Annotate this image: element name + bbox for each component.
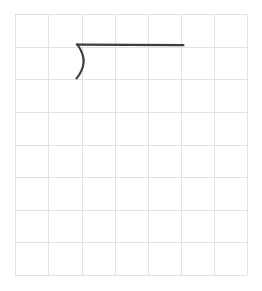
hand-drawn-hook-stroke[interactable]: [77, 45, 184, 79]
horizontal-stroke[interactable]: [77, 45, 184, 46]
sketch-surface[interactable]: [0, 0, 262, 291]
grid-horizontal-lines: [15, 14, 247, 275]
curve-stroke[interactable]: [77, 45, 84, 79]
graph-paper-grid: [15, 14, 247, 275]
grid-sketch-canvas[interactable]: [0, 0, 262, 291]
